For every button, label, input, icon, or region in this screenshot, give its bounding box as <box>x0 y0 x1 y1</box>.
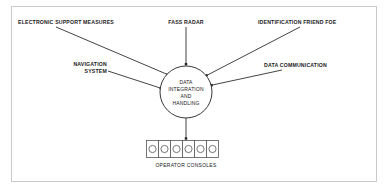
label-navigation-system-line-1: NAVIGATION <box>73 61 107 67</box>
hub-label-line-2: INTEGRATION <box>168 86 204 92</box>
console-item <box>195 141 207 158</box>
hub-circle <box>160 66 212 118</box>
console-knob-icon <box>161 145 168 152</box>
console-knob-icon <box>173 145 180 152</box>
label-data-communication: DATA COMMUNICATION <box>264 62 327 68</box>
label-fass-radar: FASS RADAR <box>168 19 204 25</box>
label-electronic-support-measures: ELECTRONIC SUPPORT MEASURES <box>18 19 114 25</box>
diagram-canvas: DATA INTEGRATION AND HANDLING ELECTRONIC… <box>0 0 390 190</box>
console-item <box>207 141 219 158</box>
console-knob-icon <box>197 145 204 152</box>
label-operator-consoles: OPERATOR CONSOLES <box>155 162 216 168</box>
label-navigation-system-line-2: SYSTEM <box>85 68 107 74</box>
system-block-diagram: DATA INTEGRATION AND HANDLING ELECTRONIC… <box>0 0 390 190</box>
console-item <box>147 141 159 158</box>
hub-label-line-1: DATA <box>179 79 193 85</box>
console-item <box>159 141 171 158</box>
hub-label-line-4: HANDLING <box>172 100 199 106</box>
console-knob-icon <box>185 145 192 152</box>
hub-label-line-3: AND <box>180 93 191 99</box>
label-identification-friend-foe: IDENTIFICATION FRIEND FOE <box>258 19 337 25</box>
console-knob-icon <box>149 145 156 152</box>
operator-consoles-group <box>147 141 219 158</box>
console-item <box>183 141 195 158</box>
console-knob-icon <box>209 145 216 152</box>
console-item <box>171 141 183 158</box>
